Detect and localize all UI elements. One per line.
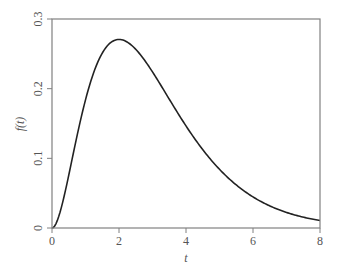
y-tick-label: 0.2 xyxy=(31,81,45,96)
y-tick-label: 0.3 xyxy=(31,12,45,27)
y-tick-label: 0.1 xyxy=(31,151,45,166)
y-tick-label: 0 xyxy=(31,225,45,231)
x-axis-label: t xyxy=(184,251,188,265)
plot-area xyxy=(52,39,320,228)
x-tick-label: 0 xyxy=(49,234,55,248)
x-tick-label: 6 xyxy=(250,234,256,248)
x-tick-label: 8 xyxy=(317,234,323,248)
axes: 0246800.10.20.3 xyxy=(31,12,323,249)
density-curve xyxy=(52,39,320,228)
plot-frame xyxy=(52,19,320,228)
x-tick-label: 2 xyxy=(116,234,122,248)
x-tick-label: 4 xyxy=(183,234,189,248)
density-chart: 0246800.10.20.3 t f(t) xyxy=(0,0,339,271)
y-axis-label: f(t) xyxy=(13,117,27,132)
